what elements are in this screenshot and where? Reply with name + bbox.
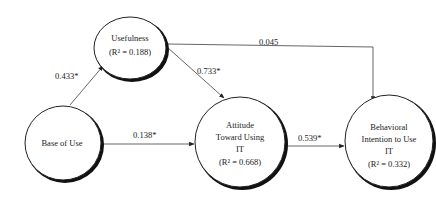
node-usefulness-r2: (R² = 0.188) <box>109 47 151 57</box>
edge-label-ease-to-usefulness: 0.433* <box>55 71 78 81</box>
node-ease-of-use: Base of Use <box>25 106 104 183</box>
node-intention-line-3: IT <box>385 146 394 156</box>
node-usefulness-label: Usefulness <box>111 33 148 43</box>
node-intention-line-1: Behavioral <box>370 122 408 132</box>
edge-label-usefulness-to-intention: 0.045 <box>259 37 278 47</box>
node-ease-of-use-label: Base of Use <box>41 138 82 148</box>
node-attitude-line-2: Toward Using <box>216 132 265 142</box>
edge-label-ease-to-attitude: 0.138* <box>133 130 156 140</box>
node-intention-line-2: Intention to Use <box>362 134 417 144</box>
node-intention-r2: (R² = 0.332) <box>368 159 410 169</box>
node-attitude-line-1: Attitude <box>226 120 254 130</box>
edge-label-attitude-to-intention: 0.539* <box>298 133 321 143</box>
node-attitude-r2: (R² = 0.668) <box>219 157 261 167</box>
edge-label-usefulness-to-attitude: 0.733* <box>197 66 220 76</box>
node-attitude-line-3: IT <box>236 144 245 154</box>
node-attitude: Attitude Toward Using IT (R² = 0.668) <box>195 97 288 190</box>
node-usefulness: Usefulness (R² = 0.188) <box>94 17 169 82</box>
path-diagram: 0.433* 0.733* 0.045 0.138* 0.539* Useful… <box>0 0 436 201</box>
node-behavioral-intention: Behavioral Intention to Use IT (R² = 0.3… <box>345 95 436 190</box>
